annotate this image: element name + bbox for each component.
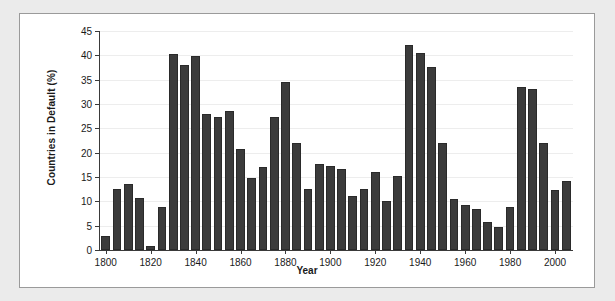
- x-tick-label: 1800: [95, 257, 117, 268]
- bar: [292, 143, 301, 250]
- bar: [416, 53, 425, 250]
- y-tick-label: 25: [81, 123, 92, 134]
- x-tick-mark: [196, 250, 197, 254]
- x-tick-label: 1860: [229, 257, 251, 268]
- bar: [348, 196, 357, 251]
- x-tick-mark: [106, 250, 107, 254]
- x-tick-label: 1980: [499, 257, 521, 268]
- bar: [528, 89, 537, 250]
- bar: [124, 184, 133, 250]
- bar: [202, 114, 211, 250]
- bar: [315, 164, 324, 250]
- bar: [382, 201, 391, 250]
- x-tick-label: 2000: [544, 257, 566, 268]
- y-tick-mark: [95, 250, 99, 251]
- y-axis-title: Countries in Default (%): [46, 33, 57, 223]
- x-tick-mark: [375, 250, 376, 254]
- bar: [506, 207, 515, 250]
- x-tick-mark: [151, 250, 152, 254]
- bar-series: [99, 31, 573, 250]
- bar: [461, 205, 470, 250]
- bar: [146, 246, 155, 250]
- bar: [539, 143, 548, 250]
- x-tick-mark: [241, 250, 242, 254]
- bar: [180, 65, 189, 250]
- bar: [225, 111, 234, 250]
- x-tick-label: 1920: [364, 257, 386, 268]
- bar: [191, 56, 200, 250]
- y-tick-label: 45: [81, 26, 92, 37]
- x-tick-mark: [465, 250, 466, 254]
- y-tick-label: 30: [81, 99, 92, 110]
- x-tick-mark: [330, 250, 331, 254]
- bar: [438, 143, 447, 250]
- bar: [247, 178, 256, 251]
- bar: [393, 176, 402, 250]
- y-tick-label: 10: [81, 196, 92, 207]
- x-tick-label: 1820: [140, 257, 162, 268]
- bar: [337, 169, 346, 250]
- y-tick-label: 5: [86, 220, 92, 231]
- bar: [494, 227, 503, 250]
- bar: [562, 181, 571, 250]
- y-tick-label: 35: [81, 74, 92, 85]
- x-tick-mark: [510, 250, 511, 254]
- bar: [259, 167, 268, 250]
- bar: [169, 54, 178, 250]
- x-axis-line: [99, 250, 573, 251]
- x-tick-label: 1880: [274, 257, 296, 268]
- x-tick-label: 1840: [184, 257, 206, 268]
- bar: [236, 149, 245, 250]
- y-tick-label: 40: [81, 50, 92, 61]
- chart-figure-frame: Countries in Default (%) Year 0510152025…: [19, 13, 595, 288]
- x-tick-mark: [285, 250, 286, 254]
- x-tick-label: 1900: [319, 257, 341, 268]
- bar: [360, 189, 369, 250]
- y-tick-label: 0: [86, 245, 92, 256]
- bar: [304, 189, 313, 250]
- bar: [472, 209, 481, 250]
- y-tick-label: 15: [81, 172, 92, 183]
- bar: [427, 67, 436, 250]
- bar: [135, 198, 144, 250]
- bar: [101, 236, 110, 250]
- bar: [405, 45, 414, 250]
- bar-chart: Countries in Default (%) Year 0510152025…: [20, 14, 594, 287]
- bar: [214, 117, 223, 250]
- bar: [326, 166, 335, 250]
- bar: [483, 222, 492, 250]
- bar: [270, 117, 279, 250]
- bar: [450, 199, 459, 250]
- x-tick-mark: [555, 250, 556, 254]
- bar: [113, 189, 122, 250]
- x-tick-mark: [420, 250, 421, 254]
- bar: [517, 87, 526, 250]
- x-tick-label: 1940: [409, 257, 431, 268]
- bar: [371, 172, 380, 250]
- bar: [551, 190, 560, 250]
- bar: [158, 207, 167, 250]
- bar: [281, 82, 290, 250]
- plot-area: 051015202530354045 180018201840186018801…: [99, 31, 573, 250]
- x-tick-label: 1960: [454, 257, 476, 268]
- y-tick-label: 20: [81, 147, 92, 158]
